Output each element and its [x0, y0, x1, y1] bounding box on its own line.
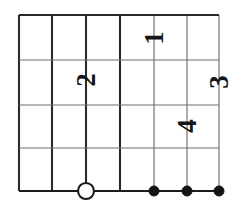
- grid-diagram: 1234: [0, 0, 239, 206]
- digit-label-3: 3: [204, 75, 234, 89]
- digit-label-1: 1: [139, 31, 169, 45]
- data-point-p3-filled-circle[interactable]: [214, 186, 224, 196]
- data-point-p0-open-circle[interactable]: [78, 183, 94, 199]
- digit-label-2: 2: [71, 73, 101, 87]
- figure-container: 1234: [0, 0, 239, 206]
- data-point-p1-filled-circle[interactable]: [149, 186, 159, 196]
- digit-label-4: 4: [172, 119, 202, 133]
- data-point-p2-filled-circle[interactable]: [182, 186, 192, 196]
